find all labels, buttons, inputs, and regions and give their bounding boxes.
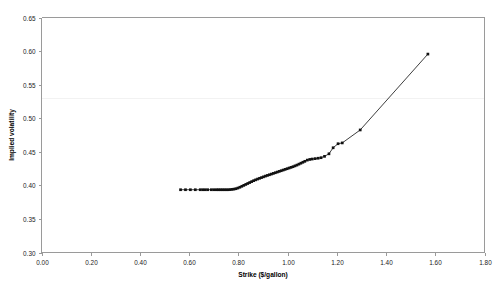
data-point-marker bbox=[199, 188, 202, 191]
data-point-marker bbox=[332, 146, 335, 149]
data-point-marker bbox=[323, 155, 326, 158]
chart-container: 0.300.350.400.450.500.550.600.65 0.000.2… bbox=[0, 0, 502, 287]
y-tick-label: 0.50 bbox=[23, 115, 36, 122]
data-point-marker bbox=[317, 157, 320, 160]
data-point-marker bbox=[320, 156, 323, 159]
x-tick-label: 0.20 bbox=[85, 259, 98, 266]
y-tick-label: 0.45 bbox=[23, 149, 36, 156]
y-tick-label: 0.55 bbox=[23, 82, 36, 89]
data-point-marker bbox=[189, 188, 192, 191]
implied-volatility-chart: 0.300.350.400.450.500.550.600.65 0.000.2… bbox=[0, 0, 502, 287]
x-tick-label: 0.00 bbox=[36, 259, 49, 266]
data-point-marker bbox=[179, 188, 182, 191]
x-tick-label: 1.80 bbox=[479, 259, 492, 266]
data-point-marker bbox=[311, 158, 314, 161]
chart-background bbox=[0, 0, 502, 287]
y-tick-label: 0.30 bbox=[23, 250, 36, 257]
data-point-marker bbox=[184, 188, 187, 191]
x-tick-label: 1.60 bbox=[429, 259, 442, 266]
data-point-marker bbox=[359, 129, 362, 132]
x-tick-label: 1.20 bbox=[331, 259, 344, 266]
y-tick-label: 0.60 bbox=[23, 48, 36, 55]
data-point-marker bbox=[308, 158, 311, 161]
y-tick-label: 0.65 bbox=[23, 15, 36, 22]
data-point-marker bbox=[204, 188, 207, 191]
x-tick-label: 1.40 bbox=[380, 259, 393, 266]
x-tick-label: 1.00 bbox=[282, 259, 295, 266]
x-axis-title: Strike ($/gallon) bbox=[238, 271, 287, 279]
y-tick-label: 0.40 bbox=[23, 182, 36, 189]
data-point-marker bbox=[201, 188, 204, 191]
x-tick-label: 0.40 bbox=[134, 259, 147, 266]
y-axis-title: Implied volatility bbox=[8, 109, 16, 161]
data-point-marker bbox=[341, 142, 344, 145]
data-point-marker bbox=[328, 152, 331, 155]
data-point-marker bbox=[306, 159, 309, 162]
data-point-marker bbox=[194, 188, 197, 191]
data-point-marker bbox=[337, 142, 340, 145]
data-point-marker bbox=[427, 53, 430, 56]
y-tick-label: 0.35 bbox=[23, 216, 36, 223]
x-tick-label: 0.60 bbox=[183, 259, 196, 266]
x-tick-label: 0.80 bbox=[232, 259, 245, 266]
data-point-marker bbox=[210, 188, 213, 191]
data-point-marker bbox=[212, 188, 215, 191]
data-point-marker bbox=[206, 188, 209, 191]
data-point-marker bbox=[314, 157, 317, 160]
data-point-marker bbox=[303, 160, 306, 163]
